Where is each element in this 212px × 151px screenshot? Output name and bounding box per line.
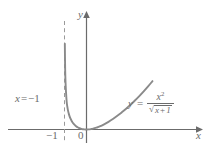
radicand-operator: + (160, 105, 165, 115)
equation-left-side: y (128, 98, 133, 109)
asymptote-equals-sign: = (21, 92, 27, 104)
radicand-variable: x (155, 105, 159, 115)
fraction-numerator: x2 (153, 91, 167, 103)
x-tick-label-minus-one: −1 (46, 130, 58, 141)
x-axis-label: x (196, 130, 201, 141)
origin-label-zero: 0 (78, 130, 84, 141)
y-axis-label: y (78, 9, 83, 20)
function-curve (65, 44, 153, 130)
y-axis-arrowhead (83, 11, 90, 18)
square-root: √ x+1 (149, 105, 172, 115)
y-axis (83, 11, 90, 143)
graph-figure: y x −1 0 x=−1 y = x2 √ x+1 (0, 0, 212, 151)
equation-equals-sign: = (137, 98, 143, 109)
equation-annotation: y = x2 √ x+1 (128, 91, 174, 115)
asymptote-annotation: x=−1 (15, 93, 40, 104)
plot-canvas (0, 0, 212, 151)
radicand-constant: 1 (166, 105, 171, 115)
fraction-denominator: √ x+1 (147, 104, 174, 115)
x-axis (8, 126, 203, 133)
asymptote-variable: x (15, 92, 20, 104)
numerator-exponent: 2 (161, 90, 164, 97)
equation-fraction: x2 √ x+1 (147, 91, 174, 115)
radicand: x+1 (154, 105, 172, 115)
asymptote-value: −1 (28, 92, 40, 104)
